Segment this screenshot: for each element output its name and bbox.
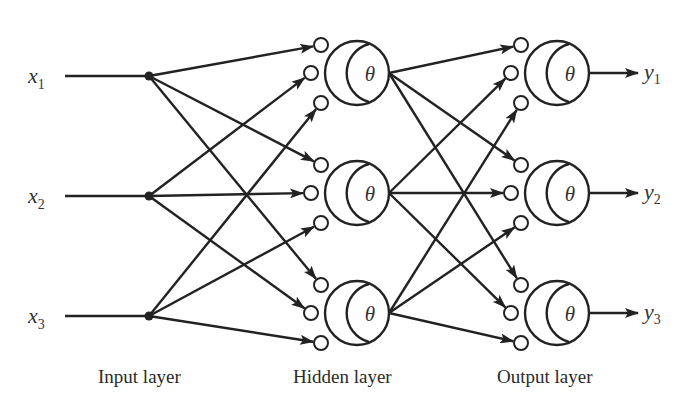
synapse-port — [304, 186, 318, 200]
theta-symbol: θ — [565, 182, 575, 206]
hidden-neuron: θ — [304, 278, 389, 350]
synapse-port — [514, 38, 528, 52]
synapse-port — [514, 336, 528, 350]
output-neuron: θ — [504, 38, 589, 110]
hidden-to-output-connection — [389, 47, 513, 73]
hidden-neuron: θ — [304, 158, 389, 230]
input-label: x1 — [27, 63, 45, 92]
input-node-dot — [145, 72, 154, 81]
synapse-port — [514, 278, 528, 292]
synapse-port — [504, 66, 518, 80]
synapse-port — [314, 216, 328, 230]
input-to-hidden-connection — [149, 316, 313, 342]
output-label: y2 — [642, 179, 661, 207]
synapse-port — [504, 306, 518, 320]
hidden-neuron: θ — [304, 38, 389, 110]
output-neuron: θ — [504, 158, 589, 230]
output-label: y1 — [642, 59, 661, 87]
input-to-hidden-connection — [149, 196, 305, 308]
input-to-hidden-connection — [149, 46, 313, 76]
output-neuron: θ — [504, 278, 589, 350]
hidden-to-output-connection — [389, 79, 505, 193]
input-to-hidden-connection — [149, 193, 303, 196]
output-layer-label: Output layer — [497, 366, 593, 388]
synapse-port — [514, 216, 528, 230]
hidden-layer-label: Hidden layer — [293, 366, 392, 388]
input-node-dot — [145, 192, 154, 201]
hidden-to-output-connection — [389, 313, 513, 341]
input-to-hidden-connection — [149, 78, 305, 196]
synapse-port — [514, 158, 528, 172]
theta-symbol: θ — [365, 302, 375, 326]
synapse-port — [314, 336, 328, 350]
input-node-dot — [145, 312, 154, 321]
input-layer-label: Input layer — [98, 366, 181, 388]
synapse-port — [304, 66, 318, 80]
synapse-port — [504, 186, 518, 200]
synapse-port — [514, 96, 528, 110]
theta-symbol: θ — [365, 182, 375, 206]
neural-network-diagram: θθθθθθ x1x2x3y1y2y3 — [0, 0, 695, 415]
synapse-port — [314, 278, 328, 292]
synapse-port — [314, 96, 328, 110]
output-label: y3 — [642, 299, 661, 327]
theta-symbol: θ — [565, 62, 575, 86]
synapse-port — [314, 158, 328, 172]
hidden-to-output-connection — [389, 73, 514, 160]
hidden-to-output-connection — [389, 193, 505, 307]
input-label: x3 — [27, 303, 45, 332]
theta-symbol: θ — [365, 62, 375, 86]
input-to-hidden-connection — [149, 227, 314, 316]
input-label: x2 — [27, 183, 45, 212]
synapse-port — [314, 38, 328, 52]
theta-symbol: θ — [565, 302, 575, 326]
hidden-to-output-connection — [389, 228, 514, 313]
synapse-port — [304, 306, 318, 320]
